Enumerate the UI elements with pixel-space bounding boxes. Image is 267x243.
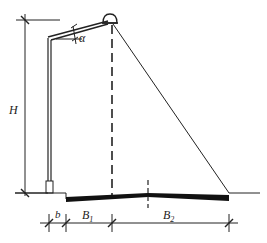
sidewalk-ground — [15, 193, 66, 199]
streetlight-diagram: α H b B1 B2 — [0, 0, 267, 243]
light-cone-diagonal — [113, 24, 229, 193]
bottom-dimension-line — [40, 214, 238, 232]
b2-label: B2 — [163, 208, 174, 224]
height-dimension-line — [15, 14, 60, 197]
height-label: H — [8, 103, 19, 117]
setback-label: b — [55, 208, 61, 220]
angle-label: α — [79, 31, 86, 45]
b1-label: B1 — [82, 208, 93, 224]
light-pole — [46, 38, 53, 193]
